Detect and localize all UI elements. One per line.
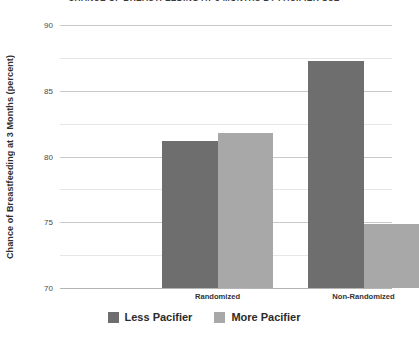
legend-label: Less Pacifier: [125, 311, 193, 323]
chart-title: CHANCE OF BREASTFEEDING AT 3 MONTHS BY P…: [0, 0, 408, 3]
legend-item[interactable]: More Pacifier: [214, 311, 300, 323]
y-axis-tick-label: 70: [44, 284, 53, 293]
gridline-minor: [60, 58, 392, 59]
y-axis-tick-label: 80: [44, 152, 53, 161]
gridline-major: [60, 288, 392, 289]
y-axis-title: Chance of Breastfeeding at 3 Months (per…: [3, 25, 17, 288]
y-axis-tick-label: 75: [44, 218, 53, 227]
bar: [308, 61, 364, 288]
y-axis-tick-label: 90: [44, 21, 53, 30]
x-axis-category-label: Non-Randomized: [332, 292, 394, 301]
bar: [162, 141, 218, 288]
legend-label: More Pacifier: [231, 311, 300, 323]
chart-legend: Less PacifierMore Pacifier: [0, 311, 408, 323]
bar: [218, 133, 274, 288]
bar: [364, 224, 419, 288]
y-axis-tick-label: 85: [44, 86, 53, 95]
x-axis-category-label: Randomized: [195, 292, 240, 301]
legend-swatch-icon: [108, 312, 119, 323]
gridline-major: [60, 25, 392, 26]
legend-swatch-icon: [214, 312, 225, 323]
legend-item[interactable]: Less Pacifier: [108, 311, 193, 323]
plot-area: 9085807570: [60, 25, 392, 288]
